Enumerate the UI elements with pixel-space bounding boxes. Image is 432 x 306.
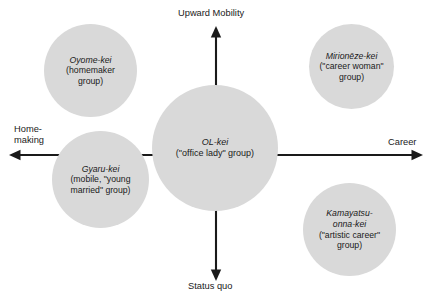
bubble-gyaru-kei-desc-1: (mobile, "young bbox=[70, 174, 130, 184]
bubble-gyaru-kei-label: Gyaru-kei (mobile, "young married" group… bbox=[66, 164, 134, 196]
axis-label-status-quo: Status quo bbox=[188, 281, 232, 292]
bubble-ol-kei-desc-1: ("office lady" group) bbox=[176, 148, 254, 158]
bubble-kamayatsu-onna-kei-desc-1: ("artistic career" bbox=[319, 230, 380, 240]
bubble-gyaru-kei-desc-2: married" group) bbox=[70, 185, 130, 195]
axis-label-career: Career bbox=[388, 137, 416, 148]
bubble-mirioneze-kei-desc-2: group) bbox=[339, 72, 364, 82]
bubble-ol-kei[interactable]: OL-kei ("office lady" group) bbox=[152, 85, 278, 211]
bubble-gyaru-kei-name: Gyaru-kei bbox=[82, 164, 120, 174]
vertical-axis-arrow-down bbox=[211, 270, 221, 282]
horizontal-axis-arrow-right bbox=[412, 150, 424, 160]
bubble-kamayatsu-onna-kei-desc-2: group) bbox=[337, 240, 362, 250]
bubble-gyaru-kei[interactable]: Gyaru-kei (mobile, "young married" group… bbox=[52, 131, 149, 228]
bubble-mirioneze-kei-label: Mirionēze-kei ("career woman" group) bbox=[315, 51, 387, 83]
axis-label-upward-mobility: Upward Mobility bbox=[178, 8, 244, 19]
bubble-kamayatsu-onna-kei-name-2: onna-kei bbox=[333, 219, 366, 229]
bubble-oyome-kei-desc-1: (homemaker bbox=[66, 65, 115, 75]
bubble-oyome-kei-label: Oyome-kei (homemaker group) bbox=[62, 55, 119, 87]
horizontal-axis-arrow-left bbox=[9, 150, 21, 160]
bubble-ol-kei-name: OL-kei bbox=[202, 137, 229, 147]
axis-label-homemaking-line-1: Home- bbox=[14, 124, 42, 134]
bubble-mirioneze-kei-desc-1: ("career woman" bbox=[319, 61, 383, 71]
axis-label-homemaking-line-2: making bbox=[14, 135, 44, 145]
bubble-ol-kei-label: OL-kei ("office lady" group) bbox=[172, 137, 258, 159]
positioning-matrix-diagram: Oyome-kei (homemaker group) Mirionēze-ke… bbox=[0, 0, 432, 306]
bubble-kamayatsu-onna-kei[interactable]: Kamayatsu- onna-kei ("artistic career" g… bbox=[303, 183, 396, 276]
bubble-oyome-kei-name: Oyome-kei bbox=[69, 55, 111, 65]
bubble-mirioneze-kei[interactable]: Mirionēze-kei ("career woman" group) bbox=[309, 24, 394, 109]
bubble-kamayatsu-onna-kei-label: Kamayatsu- onna-kei ("artistic career" g… bbox=[315, 208, 384, 250]
bubble-kamayatsu-onna-kei-name-1: Kamayatsu- bbox=[326, 208, 372, 218]
axis-label-homemaking: Home- making bbox=[14, 124, 44, 146]
bubble-oyome-kei[interactable]: Oyome-kei (homemaker group) bbox=[44, 24, 137, 117]
bubble-mirioneze-kei-name: Mirionēze-kei bbox=[326, 51, 378, 61]
vertical-axis-arrow-up bbox=[211, 26, 221, 38]
bubble-oyome-kei-desc-2: group) bbox=[78, 76, 103, 86]
